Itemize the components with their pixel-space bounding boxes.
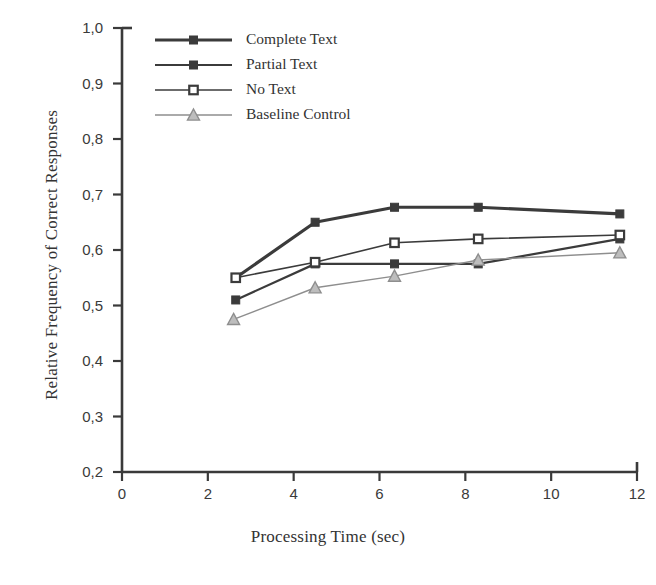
legend-label-baseline-control: Baseline Control bbox=[246, 105, 351, 123]
legend-marker-baseline-control bbox=[155, 109, 232, 120]
x-tick-label: 10 bbox=[536, 485, 566, 502]
x-tick-label: 8 bbox=[450, 485, 480, 502]
legend-label-complete-text: Complete Text bbox=[246, 30, 337, 48]
y-tick-label: 0,4 bbox=[63, 352, 103, 369]
data-series-layer bbox=[228, 203, 626, 324]
y-tick-label: 0,8 bbox=[63, 130, 103, 147]
y-tick-label: 0,5 bbox=[63, 297, 103, 314]
series-baseline-control bbox=[228, 247, 626, 325]
x-tick-label: 12 bbox=[622, 485, 652, 502]
axis-ticks bbox=[113, 28, 637, 481]
x-axis-title: Processing Time (sec) bbox=[0, 527, 656, 547]
y-axis-title: Relative Frequency of Correct Responses bbox=[42, 85, 62, 425]
y-tick-label: 0,2 bbox=[63, 463, 103, 480]
chart-figure: Relative Frequency of Correct Responses … bbox=[0, 0, 656, 585]
x-tick-label: 0 bbox=[107, 485, 137, 502]
y-tick-label: 0,6 bbox=[63, 241, 103, 258]
y-tick-label: 1,0 bbox=[63, 19, 103, 36]
legend-marker-partial-text bbox=[155, 61, 232, 69]
legend-label-no-text: No Text bbox=[246, 80, 296, 98]
legend-marker-no-text bbox=[155, 86, 232, 95]
legend-marks bbox=[155, 36, 232, 120]
y-tick-label: 0,3 bbox=[63, 408, 103, 425]
legend-marker-complete-text bbox=[155, 36, 232, 44]
x-tick-label: 2 bbox=[193, 485, 223, 502]
legend-label-partial-text: Partial Text bbox=[246, 55, 317, 73]
y-tick-label: 0,9 bbox=[63, 75, 103, 92]
x-tick-label: 4 bbox=[279, 485, 309, 502]
y-tick-label: 0,7 bbox=[63, 186, 103, 203]
x-tick-label: 6 bbox=[365, 485, 395, 502]
